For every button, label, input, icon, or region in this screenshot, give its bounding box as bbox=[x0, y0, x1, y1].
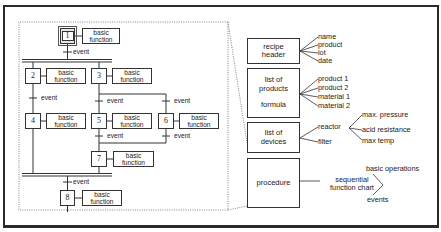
event-label: event bbox=[107, 132, 123, 139]
event-label: event bbox=[41, 94, 57, 101]
device-filter: filter bbox=[318, 138, 332, 146]
product-item: product 1 bbox=[318, 75, 348, 83]
event-label: event bbox=[73, 48, 89, 55]
func-line2: function bbox=[89, 36, 112, 43]
step-6-basic-function: basicfunction bbox=[179, 113, 219, 129]
reactor-prop-max-pressure: max. pressure bbox=[362, 111, 408, 119]
list-of-devices-box: list of devices bbox=[247, 122, 300, 153]
material-item: material 2 bbox=[318, 102, 350, 110]
list-of-products-box: list of products formula bbox=[247, 68, 300, 118]
func-line1: basic bbox=[191, 114, 206, 121]
event-label: event bbox=[73, 178, 89, 185]
sfc-step-1: 1 bbox=[60, 28, 75, 44]
step-2-basic-function: basicfunction bbox=[46, 68, 86, 84]
reactor-prop-acid-resistance: acid resistance bbox=[362, 126, 411, 134]
sfc-line2: function chart bbox=[320, 184, 384, 192]
device-reactor: reactor bbox=[318, 123, 341, 131]
sfc-step-8: 8 bbox=[60, 190, 75, 206]
step-7-basic-function: basicfunction bbox=[113, 151, 154, 167]
formula-label: formula bbox=[261, 101, 286, 110]
func-line1: basic bbox=[126, 152, 141, 159]
events-label: events bbox=[367, 196, 389, 204]
sfc-step-3: 3 bbox=[91, 68, 107, 84]
sfc-step-4: 4 bbox=[25, 113, 41, 129]
reactor-prop-max-temp: max temp bbox=[362, 137, 394, 145]
step-8-basic-function: basicfunction bbox=[82, 190, 122, 206]
func-line1: basic bbox=[94, 191, 109, 198]
sfc-step-2: 2 bbox=[25, 68, 41, 84]
product-item: product 2 bbox=[318, 84, 348, 92]
procedure-label: procedure bbox=[257, 179, 291, 188]
recipe-header-box: recipe header bbox=[247, 38, 300, 64]
func-line1: basic bbox=[93, 29, 108, 36]
event-label: event bbox=[174, 132, 190, 139]
func-line2: function bbox=[122, 159, 145, 166]
step-5-basic-function: basicfunction bbox=[112, 113, 152, 129]
func-line1: basic bbox=[58, 114, 73, 121]
step-1-basic-function: basicfunction bbox=[82, 28, 120, 44]
func-line1: basic bbox=[58, 69, 73, 76]
func-line1: basic bbox=[124, 114, 139, 121]
func-line1: basic bbox=[124, 69, 139, 76]
func-line2: function bbox=[120, 76, 143, 83]
products-line2: products bbox=[259, 85, 288, 94]
func-line2: function bbox=[120, 121, 143, 128]
recipe-header-line2: header bbox=[262, 51, 285, 60]
sfc-step-7: 7 bbox=[91, 151, 107, 167]
func-line2: function bbox=[54, 76, 77, 83]
header-field-date: date bbox=[318, 57, 332, 65]
func-line2: function bbox=[187, 121, 210, 128]
func-line2: function bbox=[90, 198, 113, 205]
func-line2: function bbox=[54, 121, 77, 128]
basic-operations-label: basic operations bbox=[366, 165, 419, 173]
step-4-basic-function: basicfunction bbox=[46, 113, 86, 129]
sfc-step-6: 6 bbox=[158, 113, 174, 129]
sfc-step-5: 5 bbox=[91, 113, 107, 129]
event-label: event bbox=[174, 97, 190, 104]
procedure-box: procedure bbox=[247, 158, 300, 208]
step-number: 1 bbox=[62, 31, 74, 41]
sequential-function-chart-label: sequential function chart bbox=[320, 176, 384, 192]
recipe-structure-diagram: 1 basicfunction event 2 basicfunction 3 … bbox=[0, 0, 441, 232]
event-label: event bbox=[107, 97, 123, 104]
devices-line2: devices bbox=[261, 138, 286, 147]
step-3-basic-function: basicfunction bbox=[112, 68, 152, 84]
material-item: material 1 bbox=[318, 93, 350, 101]
